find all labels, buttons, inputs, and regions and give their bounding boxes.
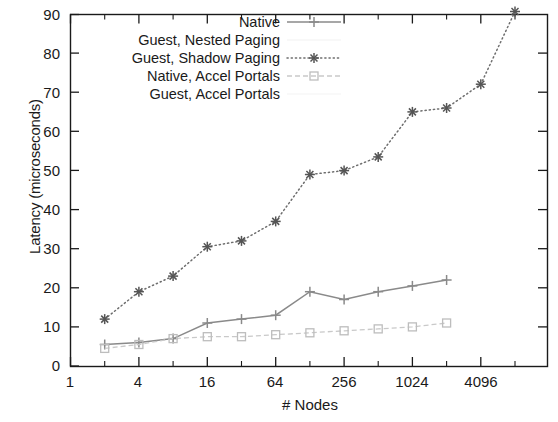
- chart-canvas: [0, 0, 558, 422]
- marker-square-group: [101, 319, 451, 352]
- legend-sample-native: [287, 17, 341, 27]
- y-axis-ticks: [70, 15, 547, 367]
- x-axis-minor-ticks: [105, 15, 515, 367]
- legend-sample-native-accel: [287, 72, 341, 80]
- series-guest-shadow-paging: [100, 7, 520, 325]
- series-native-accel-portals: [101, 319, 451, 352]
- latency-line-chart: Latency (microseconds) # Nodes 90 80 70 …: [0, 0, 558, 422]
- legend-sample-shadow-paging: [287, 53, 341, 63]
- plot-frame: [71, 15, 548, 367]
- marker-star-group: [100, 7, 520, 325]
